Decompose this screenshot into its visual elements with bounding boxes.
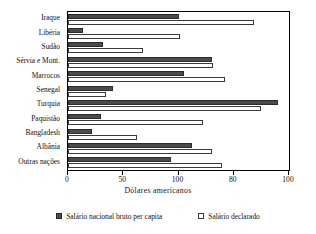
- bar-declared: [68, 135, 137, 140]
- bar-declared: [68, 106, 261, 111]
- category-label: Turquia: [0, 100, 60, 108]
- x-tick-label: 80: [229, 175, 237, 184]
- bar-gni: [68, 157, 171, 162]
- bar-gni: [68, 42, 103, 47]
- bar-gni: [68, 129, 92, 134]
- bar-gni: [68, 114, 101, 119]
- category-label: Outras nações: [0, 158, 60, 166]
- category-label: Libéria: [0, 29, 60, 37]
- category-label: Marrocos: [0, 72, 60, 80]
- bar-gni: [68, 143, 192, 148]
- category-label: Paquistão: [0, 115, 60, 123]
- bar-gni: [68, 14, 179, 19]
- bar-gni: [68, 28, 83, 33]
- category-label: Sérvia e Mont.: [0, 57, 60, 65]
- x-tick-label: 50: [118, 175, 126, 184]
- category-label: Iraque: [0, 14, 60, 22]
- bar-chart: IraqueLibériaSudãoSérvia e Mont.Marrocos…: [0, 0, 316, 234]
- bar-declared: [68, 34, 180, 39]
- x-tick-label: 100: [282, 175, 293, 184]
- legend-label: Salário nacional bruto per capita: [66, 212, 162, 221]
- chart-legend: Salário nacional bruto per capitaSalário…: [0, 209, 316, 223]
- x-tick-label: 100: [172, 175, 183, 184]
- category-axis: IraqueLibériaSudãoSérvia e Mont.Marrocos…: [0, 11, 64, 171]
- bar-gni: [68, 57, 212, 62]
- bar-gni: [68, 86, 113, 91]
- bar-gni: [68, 71, 184, 76]
- bar-declared: [68, 163, 222, 168]
- legend-label: Salário declarado: [208, 212, 260, 221]
- legend-swatch-icon: [56, 213, 62, 219]
- category-label: Senegal: [0, 86, 60, 94]
- bar-declared: [68, 20, 254, 25]
- bar-declared: [68, 149, 212, 154]
- bar-declared: [68, 63, 213, 68]
- category-label: Albânia: [0, 143, 60, 151]
- legend-swatch-icon: [198, 213, 204, 219]
- legend-entry: Salário nacional bruto per capita: [56, 212, 162, 221]
- bar-declared: [68, 120, 203, 125]
- category-label: Sudão: [0, 43, 60, 51]
- x-axis-title: Dólares americanos: [0, 186, 316, 195]
- bar-declared: [68, 77, 225, 82]
- x-tick-label: 0: [65, 175, 69, 184]
- bar-declared: [68, 92, 106, 97]
- legend-entry: Salário declarado: [198, 212, 260, 221]
- bar-gni: [68, 100, 278, 105]
- bar-declared: [68, 48, 143, 53]
- category-label: Bangladesh: [0, 129, 60, 137]
- plot-area: [67, 11, 290, 171]
